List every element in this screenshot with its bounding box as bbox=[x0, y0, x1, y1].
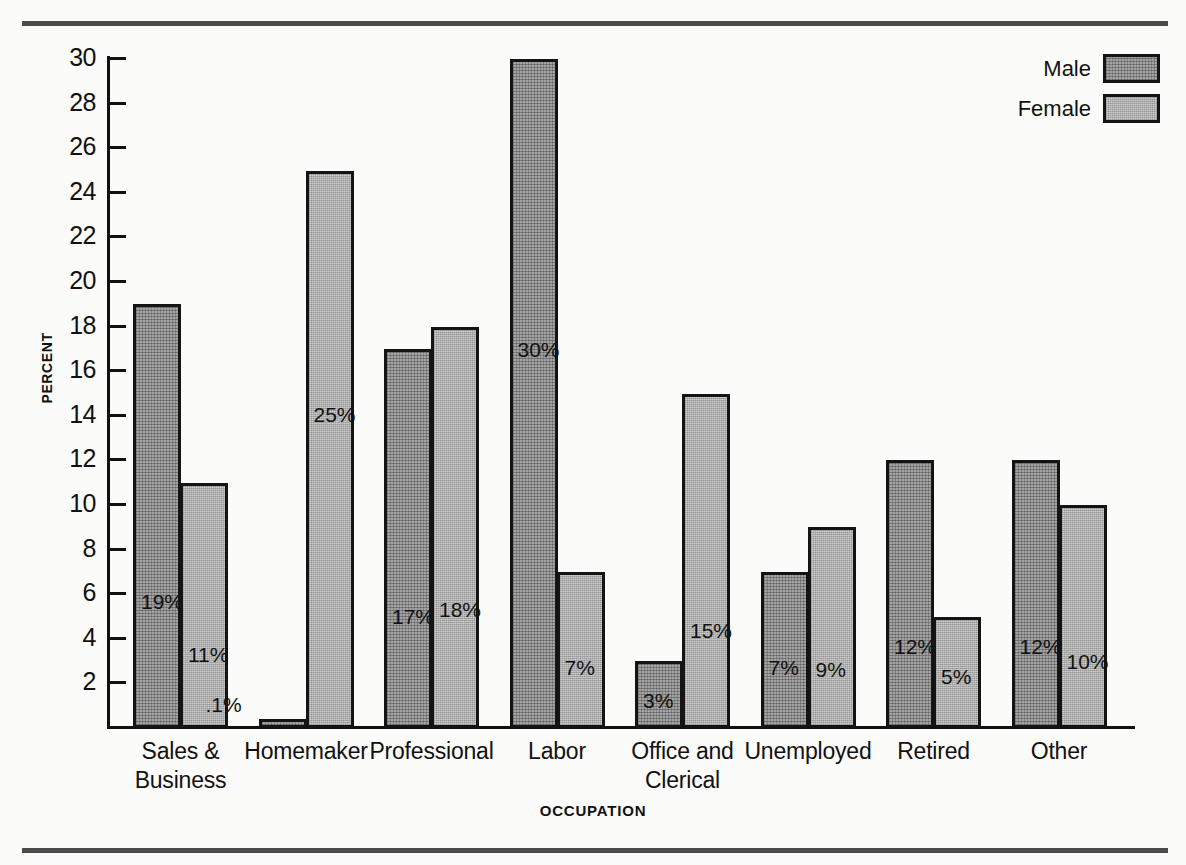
bar-value-label-retired-female: 5% bbox=[941, 666, 971, 687]
y-axis-tick-label: 30 bbox=[52, 45, 96, 70]
y-axis-tick bbox=[110, 280, 126, 283]
bar-other-male bbox=[1012, 460, 1060, 728]
female-swatch bbox=[1103, 94, 1160, 123]
bar-unemployed-female bbox=[808, 527, 856, 728]
y-axis-tick-label: 10 bbox=[52, 491, 96, 516]
bar-office-and-clerical-female bbox=[682, 394, 730, 729]
y-axis-tick-label: 14 bbox=[52, 402, 96, 427]
y-axis-tick bbox=[110, 325, 126, 328]
bar-value-label-retired-male: 12% bbox=[894, 636, 936, 657]
bar-value-label-office-and-clerical-male: 3% bbox=[643, 690, 673, 711]
legend-item-female: Female bbox=[970, 94, 1160, 123]
bar-retired-male bbox=[886, 460, 934, 728]
y-axis-tick bbox=[110, 369, 126, 372]
bar-value-label-homemaker-female: 25% bbox=[314, 404, 356, 425]
bar-value-label-labor-male: 30% bbox=[518, 339, 560, 360]
bar-labor-male bbox=[510, 59, 558, 728]
y-axis-tick bbox=[110, 548, 126, 551]
male-swatch bbox=[1103, 54, 1160, 83]
bar-chart-plot-area: 30282624222018161412108642 19%11%.1%25%1… bbox=[0, 0, 1186, 865]
x-axis-label-line: Clerical bbox=[578, 766, 788, 795]
legend-label-female: Female bbox=[1018, 98, 1091, 120]
chart-legend: MaleFemale bbox=[970, 54, 1160, 134]
y-axis-tick bbox=[110, 681, 126, 684]
bar-value-label-office-and-clerical-female: 15% bbox=[690, 620, 732, 641]
y-axis-tick bbox=[110, 146, 126, 149]
y-axis-tick-label: 24 bbox=[52, 179, 96, 204]
y-axis-tick-label: 2 bbox=[52, 669, 96, 694]
bar-value-label-professional-male: 17% bbox=[392, 606, 434, 627]
legend-label-male: Male bbox=[1043, 58, 1091, 80]
bar-value-label-professional-female: 18% bbox=[439, 599, 481, 620]
y-axis-tick-label: 12 bbox=[52, 446, 96, 471]
bar-sales-business-female bbox=[180, 483, 228, 728]
bar-value-label-other-male: 12% bbox=[1020, 636, 1062, 657]
bar-other-female bbox=[1059, 505, 1107, 728]
bar-value-label-labor-female: 7% bbox=[565, 657, 595, 678]
legend-item-male: Male bbox=[970, 54, 1160, 83]
y-axis-tick-label: 28 bbox=[52, 90, 96, 115]
bar-value-label-sales-business-male: 19% bbox=[141, 591, 183, 612]
bar-value-label-other-female: 10% bbox=[1067, 651, 1109, 672]
y-axis-tick bbox=[110, 503, 126, 506]
y-axis-tick-label: 22 bbox=[52, 223, 96, 248]
y-axis-tick bbox=[110, 592, 126, 595]
chart-page: 30282624222018161412108642 19%11%.1%25%1… bbox=[0, 0, 1186, 865]
bar-professional-male bbox=[384, 349, 432, 728]
bar-value-label-unemployed-male: 7% bbox=[769, 657, 799, 678]
x-axis-label-other: Other bbox=[954, 737, 1164, 766]
y-axis-tick bbox=[110, 637, 126, 640]
y-axis-tick bbox=[110, 235, 126, 238]
y-axis-tick-label: 16 bbox=[52, 357, 96, 382]
y-axis-tick-label: 4 bbox=[52, 625, 96, 650]
bar-homemaker-male bbox=[259, 719, 307, 728]
bar-labor-female bbox=[557, 572, 605, 728]
y-axis-tick-label: 6 bbox=[52, 580, 96, 605]
bar-value-label-sales-business-female: 11% bbox=[188, 644, 228, 665]
y-axis-tick-label: 8 bbox=[52, 536, 96, 561]
y-axis-tick-label: 20 bbox=[52, 268, 96, 293]
y-axis-tick bbox=[110, 102, 126, 105]
y-axis-tick-label: 26 bbox=[52, 134, 96, 159]
y-axis-line bbox=[107, 56, 110, 729]
bar-value-label-homemaker-male: .1% bbox=[206, 694, 242, 715]
y-axis-tick bbox=[110, 458, 126, 461]
bar-homemaker-female bbox=[306, 171, 354, 729]
y-axis-tick-label: 18 bbox=[52, 313, 96, 338]
y-axis-tick bbox=[110, 57, 126, 60]
x-axis-label-line: Business bbox=[76, 766, 286, 795]
bar-unemployed-male bbox=[761, 572, 809, 728]
y-axis-title: PERCENT bbox=[39, 308, 55, 428]
bar-professional-female bbox=[431, 327, 479, 728]
bar-value-label-unemployed-female: 9% bbox=[816, 659, 846, 680]
x-axis-title: OCCUPATION bbox=[0, 802, 1186, 819]
x-axis-label-line: Other bbox=[954, 737, 1164, 766]
y-axis-tick bbox=[110, 191, 126, 194]
y-axis-tick bbox=[110, 414, 126, 417]
bar-sales-business-male bbox=[133, 304, 181, 728]
